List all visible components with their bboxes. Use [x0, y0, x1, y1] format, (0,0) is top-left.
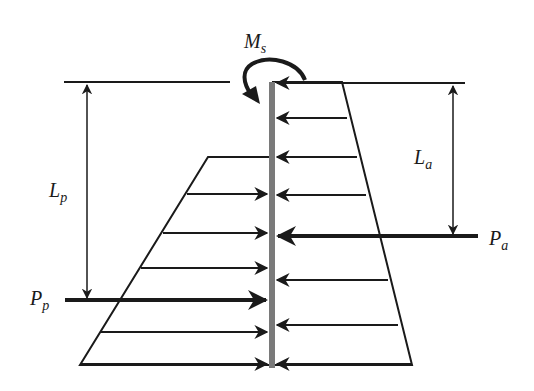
passive-pressure-diagram: [80, 157, 272, 365]
active-pressure-arrows: [277, 83, 412, 364]
passive-length-label: Lp: [48, 179, 67, 205]
passive-pressure-arrows: [80, 157, 268, 364]
passive-force-label: Pp: [29, 287, 49, 313]
sheet-pile-wall: [269, 82, 275, 368]
active-force-label: Pa: [488, 227, 508, 253]
sheet-pile-diagram: Ms La Lp Pa Pp: [0, 0, 534, 391]
active-length-label: La: [413, 146, 432, 172]
moment-label: Ms: [243, 30, 267, 56]
ground-surface-line: [64, 82, 465, 83]
active-pressure-diagram: [272, 82, 412, 365]
moment-arrowhead-icon: [242, 86, 260, 104]
